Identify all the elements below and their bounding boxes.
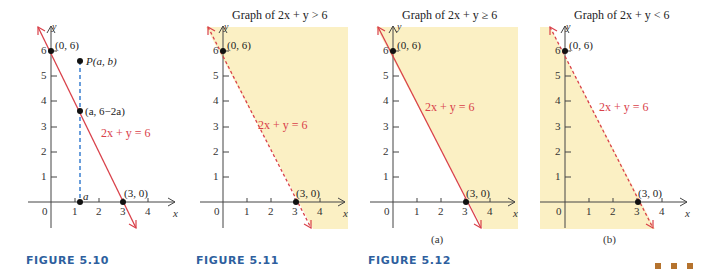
y-tick-2: 2 xyxy=(41,146,47,157)
sublabel-a: (a) xyxy=(431,233,443,245)
section-end-bullet-icon xyxy=(671,263,677,269)
figure-5-12a-plot xyxy=(342,0,522,250)
x-tick-3: 3 xyxy=(634,206,640,217)
figure-5-11: Graph of 2x + y > 6 (0, 6) (3, 0) 2x + y… xyxy=(172,0,352,250)
point-label-0-6: (0, 6) xyxy=(227,40,251,51)
figure-5-12b: Graph of 2x + y < 6 (0, 6) (3, 0) 2x + y… xyxy=(514,0,694,250)
point-0-6 xyxy=(220,48,226,54)
x-tick-1: 1 xyxy=(414,206,420,217)
point-0-6 xyxy=(48,48,54,54)
y-tick-6: 6 xyxy=(213,45,219,56)
sublabel-b: (b) xyxy=(603,233,616,245)
figure-5-10-plot xyxy=(0,0,180,250)
figure-caption-5-10: FIGURE 5.10 xyxy=(26,254,109,267)
point-label-3-0: (3, 0) xyxy=(466,188,490,199)
y-axis-label: y xyxy=(52,22,56,32)
point-label-0-6: (0, 6) xyxy=(569,40,593,51)
x-tick-4: 4 xyxy=(487,206,493,217)
point-label-P: P(a, b) xyxy=(86,56,117,67)
point-a-6-minus-2a xyxy=(77,108,83,114)
point-label-a-6-minus-2a: (a, 6−2a) xyxy=(85,106,125,117)
point-0-6 xyxy=(562,48,568,54)
x-tick-2: 2 xyxy=(610,206,616,217)
y-tick-4: 4 xyxy=(383,95,389,106)
y-tick-5: 5 xyxy=(213,70,219,81)
x-tick-0: 0 xyxy=(556,206,562,217)
y-tick-5: 5 xyxy=(41,70,47,81)
figure-5-12a: Graph of 2x + y ≥ 6 (0, 6) (3, 0) 2x + y… xyxy=(342,0,522,250)
y-tick-3: 3 xyxy=(555,121,561,132)
y-tick-5: 5 xyxy=(383,70,389,81)
y-tick-1: 1 xyxy=(41,171,47,182)
y-tick-5: 5 xyxy=(555,70,561,81)
x-tick-0: 0 xyxy=(42,206,48,217)
x-tick-0: 0 xyxy=(384,206,390,217)
x-tick-2: 2 xyxy=(268,206,274,217)
x-tick-2: 2 xyxy=(96,206,102,217)
y-axis-label: y xyxy=(224,22,228,32)
point-label-3-0: (3, 0) xyxy=(638,188,662,199)
y-tick-3: 3 xyxy=(213,121,219,132)
y-tick-4: 4 xyxy=(213,95,219,106)
y-tick-6: 6 xyxy=(41,45,47,56)
y-tick-6: 6 xyxy=(383,45,389,56)
figure-5-12b-plot xyxy=(514,0,694,250)
y-tick-1: 1 xyxy=(383,171,389,182)
point-label-a: a xyxy=(83,191,89,202)
x-tick-4: 4 xyxy=(145,206,151,217)
x-tick-3: 3 xyxy=(292,206,298,217)
equation-label: 2x + y = 6 xyxy=(599,101,649,113)
x-tick-4: 4 xyxy=(659,206,665,217)
x-axis-label: x xyxy=(685,208,690,219)
figure-caption-5-11: FIGURE 5.11 xyxy=(196,254,279,267)
x-tick-1: 1 xyxy=(72,206,78,217)
section-end-bullet-icon xyxy=(687,263,693,269)
x-tick-3: 3 xyxy=(120,206,126,217)
x-tick-4: 4 xyxy=(317,206,323,217)
point-label-3-0: (3, 0) xyxy=(124,188,148,199)
y-ticks xyxy=(393,51,399,177)
figure-5-10: (0, 6) P(a, b) (a, 6−2a) (3, 0) a 2x + y… xyxy=(0,0,180,250)
point-label-0-6: (0, 6) xyxy=(397,40,421,51)
x-tick-1: 1 xyxy=(586,206,592,217)
y-tick-3: 3 xyxy=(383,121,389,132)
y-tick-4: 4 xyxy=(41,95,47,106)
y-tick-1: 1 xyxy=(213,171,219,182)
x-tick-3: 3 xyxy=(462,206,468,217)
y-ticks xyxy=(51,51,57,177)
y-ticks xyxy=(223,51,229,177)
point-0-6 xyxy=(390,48,396,54)
equation-label: 2x + y = 6 xyxy=(258,119,308,131)
equation-label: 2x + y = 6 xyxy=(425,101,475,113)
shaded-region-above-inclusive xyxy=(376,27,518,229)
y-axis-label: y xyxy=(397,22,401,32)
point-label-0-6: (0, 6) xyxy=(55,40,79,51)
x-tick-1: 1 xyxy=(244,206,250,217)
figure-caption-5-12: FIGURE 5.12 xyxy=(368,254,451,267)
y-tick-6: 6 xyxy=(555,45,561,56)
y-axis-label: y xyxy=(566,22,570,32)
y-tick-1: 1 xyxy=(555,171,561,182)
y-tick-2: 2 xyxy=(383,146,389,157)
point-label-3-0: (3, 0) xyxy=(296,188,320,199)
y-tick-2: 2 xyxy=(213,146,219,157)
y-tick-3: 3 xyxy=(41,121,47,132)
section-end-bullet-icon xyxy=(655,263,661,269)
x-tick-2: 2 xyxy=(438,206,444,217)
x-tick-0: 0 xyxy=(214,206,220,217)
equation-label: 2x + y = 6 xyxy=(101,127,151,139)
y-tick-4: 4 xyxy=(555,95,561,106)
y-tick-2: 2 xyxy=(555,146,561,157)
point-P-a-b xyxy=(77,58,83,64)
